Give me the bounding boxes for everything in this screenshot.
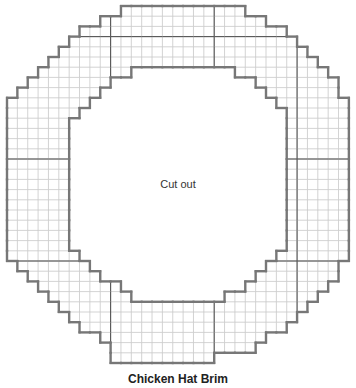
brim-pattern	[0, 0, 356, 388]
cut-out-label: Cut out	[0, 178, 356, 190]
diagram-title: Chicken Hat Brim	[0, 372, 356, 386]
